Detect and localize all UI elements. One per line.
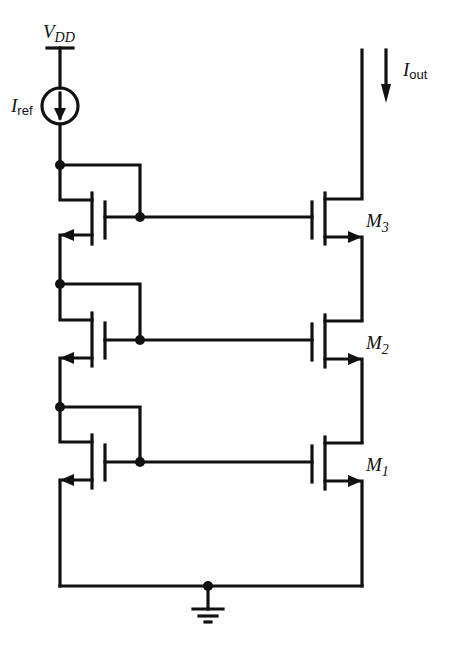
m3-label: M3 [365, 210, 389, 235]
iout-label: Iout [402, 59, 428, 82]
iref-current-source: Iref [10, 88, 78, 165]
circuit-diagram: VDD Iref [0, 0, 454, 649]
iout-arrow: Iout [381, 50, 428, 103]
left-column-wiring [60, 165, 140, 586]
transistor-m3: M3 [312, 50, 389, 319]
vdd-label: VDD [43, 21, 75, 45]
iref-label: Iref [10, 95, 33, 118]
m1-label: M1 [365, 454, 389, 479]
transistor-m1: M1 [312, 437, 389, 586]
schematic: VDD Iref [0, 0, 454, 649]
vdd-supply: VDD [43, 21, 75, 88]
junction-dots [55, 160, 213, 591]
ground-rail [60, 586, 362, 622]
transistor-m2: M2 [312, 315, 389, 442]
m2-label: M2 [365, 332, 389, 357]
